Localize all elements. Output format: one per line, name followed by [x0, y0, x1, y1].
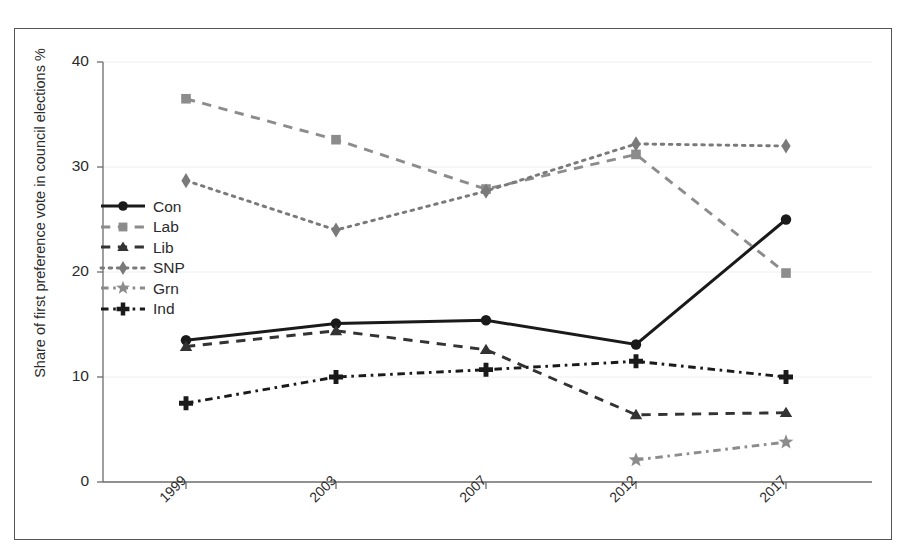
marker-diamond — [119, 261, 127, 275]
marker-plus — [179, 396, 193, 410]
series-grn — [629, 434, 794, 466]
legend-key-lab — [98, 217, 148, 237]
legend-key-con — [98, 196, 148, 216]
marker-circle — [118, 201, 128, 211]
marker-circle — [781, 214, 791, 224]
marker-plus — [479, 363, 493, 377]
y-tick-label: 30 — [55, 157, 89, 175]
marker-square — [781, 268, 791, 278]
y-axis-title: Share of first preference vote in counci… — [32, 0, 48, 433]
legend-key-ind — [98, 299, 148, 319]
legend-glyph — [98, 299, 148, 319]
legend-key-grn — [98, 278, 148, 298]
chart-screenshot: Share of first preference vote in counci… — [0, 0, 911, 555]
marker-circle — [481, 315, 491, 325]
marker-diamond — [631, 136, 640, 151]
marker-plus — [117, 302, 130, 315]
legend-glyph — [98, 237, 148, 257]
y-tick-label: 0 — [55, 472, 89, 490]
legend-glyph — [98, 217, 148, 237]
legend-item-lib: Lib — [98, 237, 216, 258]
y-tick-label: 10 — [55, 367, 89, 385]
marker-diamond — [331, 222, 340, 237]
legend-label: Lab — [148, 219, 179, 235]
marker-square — [119, 222, 128, 231]
legend-item-lab: Lab — [98, 217, 216, 238]
marker-plus — [779, 370, 793, 384]
legend-label: Grn — [148, 281, 179, 297]
legend-item-con: Con — [98, 196, 216, 217]
marker-star — [779, 434, 794, 448]
marker-star — [116, 281, 130, 294]
legend-label: SNP — [148, 260, 185, 276]
marker-circle — [631, 339, 641, 349]
legend-label: Con — [148, 199, 181, 215]
legend-label: Ind — [148, 301, 175, 317]
series-ind — [179, 354, 793, 410]
marker-square — [181, 94, 191, 104]
legend-glyph — [98, 278, 148, 298]
marker-plus — [629, 354, 643, 368]
marker-square — [331, 135, 341, 145]
series-snp — [181, 136, 790, 237]
legend-key-lib — [98, 237, 148, 257]
series-line — [186, 220, 786, 345]
chart-legend: ConLabLibSNPGrnInd — [98, 196, 216, 319]
marker-plus — [329, 370, 343, 384]
series-con — [181, 214, 791, 349]
legend-key-snp — [98, 258, 148, 278]
series-line — [636, 442, 786, 460]
marker-diamond — [781, 138, 790, 153]
legend-glyph — [98, 196, 148, 216]
legend-item-grn: Grn — [98, 278, 216, 299]
marker-triangle — [480, 344, 492, 354]
legend-label: Lib — [148, 240, 174, 256]
legend-glyph — [98, 258, 148, 278]
legend-item-snp: SNP — [98, 258, 216, 279]
legend-item-ind: Ind — [98, 299, 216, 320]
y-tick-label: 20 — [55, 262, 89, 280]
marker-diamond — [181, 173, 190, 188]
y-tick-label: 40 — [55, 52, 89, 70]
marker-star — [629, 452, 644, 466]
